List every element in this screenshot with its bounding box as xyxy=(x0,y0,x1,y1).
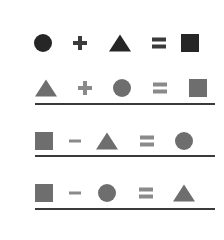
square-icon xyxy=(189,79,207,97)
square-icon xyxy=(181,34,199,52)
circle-icon xyxy=(175,132,193,150)
equals-icon xyxy=(153,83,167,94)
square-icon xyxy=(35,132,53,150)
equation-row-1 xyxy=(0,31,224,55)
circle-icon xyxy=(98,184,116,202)
equals-icon xyxy=(140,136,154,147)
circle-icon xyxy=(113,79,131,97)
equals-icon xyxy=(139,188,153,199)
minus-icon xyxy=(69,192,81,195)
plus-icon xyxy=(78,81,92,95)
underline-row-3 xyxy=(35,155,215,157)
triangle-icon xyxy=(96,133,118,150)
equals-icon xyxy=(152,38,166,49)
equation-row-4 xyxy=(0,181,224,205)
underline-row-4 xyxy=(35,208,215,210)
triangle-icon xyxy=(173,185,195,202)
triangle-icon xyxy=(109,35,131,52)
equation-row-2 xyxy=(0,76,224,100)
triangle-icon xyxy=(35,80,57,97)
minus-icon xyxy=(69,140,81,143)
plus-icon xyxy=(73,36,87,50)
circle-icon xyxy=(34,34,52,52)
square-icon xyxy=(35,184,53,202)
underline-row-2 xyxy=(35,103,215,105)
equation-row-3 xyxy=(0,129,224,153)
